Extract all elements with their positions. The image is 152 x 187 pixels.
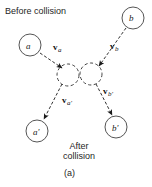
figure-index-label: (a): [64, 168, 75, 178]
caption-after-line2: collision: [55, 151, 103, 161]
velocity-arrow-v-a-prime: [44, 84, 62, 119]
collision-diagram-figure: a b a' b' va vb va' vb' Before collision…: [0, 0, 152, 187]
velocity-symbol: v: [103, 86, 108, 96]
collision-ghost-circle-right: [80, 63, 102, 85]
caption-before-collision: Before collision: [5, 6, 66, 16]
velocity-symbol: v: [53, 42, 58, 52]
velocity-label-v-a: va: [53, 42, 62, 54]
velocity-label-v-b: vb: [110, 41, 119, 53]
velocity-subscript: b': [108, 90, 113, 98]
caption-after-collision: After collision: [55, 141, 103, 161]
velocity-symbol: v: [110, 41, 115, 51]
body-label-b-prime: b': [112, 123, 118, 133]
body-label-b: b: [129, 13, 134, 23]
velocity-label-v-a-prime: va': [62, 95, 72, 107]
velocity-subscript: b: [115, 45, 119, 53]
velocity-label-v-b-prime: vb': [103, 86, 113, 98]
velocity-arrow-v-a: [40, 53, 62, 68]
velocity-subscript: a': [67, 99, 72, 107]
velocity-subscript: a: [58, 46, 62, 54]
velocity-symbol: v: [62, 95, 67, 105]
body-label-a-prime: a': [33, 127, 39, 137]
collision-ghost-circle-left: [57, 64, 79, 86]
body-label-a: a: [26, 41, 31, 51]
caption-after-line1: After: [69, 141, 88, 151]
